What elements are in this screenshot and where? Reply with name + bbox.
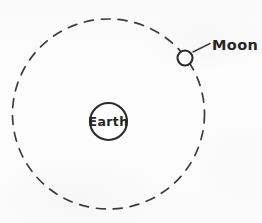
orbit-diagram-canvas: Earth Moon [0,0,262,223]
moon-label: Moon [212,37,258,53]
earth-label: Earth [88,114,128,129]
earth-moon-orbit-figure: Earth Moon [0,0,262,223]
moon-circle [178,51,193,66]
moon-leader-line [193,44,210,53]
